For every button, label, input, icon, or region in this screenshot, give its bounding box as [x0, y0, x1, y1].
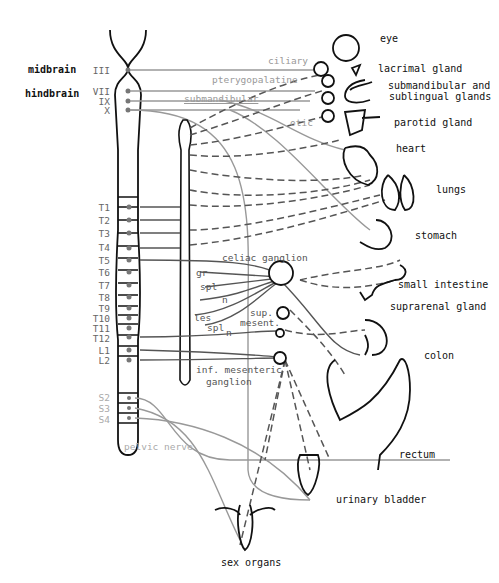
seg-t1: T1 [88, 203, 110, 213]
label-lacrimal-gland: lacrimal gland [378, 64, 462, 74]
label-urinary-bladder: urinary bladder [336, 495, 426, 505]
label-inf-mesent-2: ganglion [206, 377, 252, 387]
label-midbrain: midbrain [28, 65, 76, 75]
eye-shape [333, 35, 359, 61]
label-gr: gr [196, 268, 207, 278]
label-sex-organs: sex organs [221, 558, 281, 568]
label-n-2: n [226, 328, 232, 338]
label-n-1: n [222, 295, 228, 305]
label-spl-2: spl [207, 323, 224, 333]
label-rectum: rectum [399, 450, 435, 460]
label-submandibular-1: submandibular and [388, 81, 490, 91]
seg-t2: T2 [88, 216, 110, 226]
seg-l2: L2 [88, 356, 110, 366]
cn-iii: III [88, 66, 110, 76]
label-ciliary: ciliary [268, 56, 308, 66]
label-stomach: stomach [415, 231, 457, 241]
cn-x: X [88, 106, 110, 116]
label-submandibular: submandibular [184, 94, 258, 104]
label-pterygopalatine: pterygopalatine [212, 75, 298, 85]
label-colon: colon [424, 351, 454, 361]
seg-t5: T5 [88, 256, 110, 266]
label-inf-mesent-1: inf. mesenteric [196, 365, 282, 375]
label-eye: eye [380, 34, 398, 44]
label-pelvic-nerve: pelvic nerve [124, 442, 193, 452]
seg-t3: T3 [88, 229, 110, 239]
label-celiac-ganglion: celiac ganglion [222, 253, 308, 263]
label-small-intestine: small intestine [398, 280, 488, 290]
seg-s3: S3 [88, 404, 110, 414]
seg-s2: S2 [88, 393, 110, 403]
label-spl-1: spl [200, 282, 217, 292]
seg-t6: T6 [88, 268, 110, 278]
label-sup-mesent-2: mesent. [240, 318, 280, 328]
seg-s4: S4 [88, 415, 110, 425]
label-parotid-gland: parotid gland [394, 118, 472, 128]
seg-t12: T12 [88, 334, 110, 344]
seg-t7: T7 [88, 281, 110, 291]
label-submandibular-2: sublingual glands [389, 92, 491, 102]
label-lungs: lungs [436, 185, 466, 195]
seg-t4: T4 [88, 243, 110, 253]
label-suprarenal-gland: suprarenal gland [390, 302, 486, 312]
seg-t8: T8 [88, 293, 110, 303]
sympathetic-chain [179, 120, 191, 385]
label-hindbrain: hindbrain [25, 89, 79, 99]
label-heart: heart [396, 144, 426, 154]
label-otic: otic [290, 118, 313, 128]
